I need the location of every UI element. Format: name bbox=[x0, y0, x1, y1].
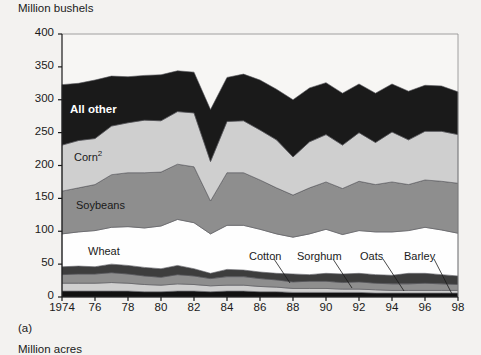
series-label-sorghum: Sorghum bbox=[297, 250, 342, 262]
series-label-barley: Barley bbox=[404, 250, 435, 262]
y-tick-label: 350 bbox=[20, 59, 54, 71]
y-tick-label: 100 bbox=[20, 223, 54, 235]
next-figure-title: Million acres bbox=[18, 343, 82, 355]
series-label-corn: Corn2 bbox=[74, 149, 102, 163]
y-tick-label: 200 bbox=[20, 158, 54, 170]
series-label-corn-superscript: 2 bbox=[98, 149, 102, 158]
y-tick-label: 0 bbox=[20, 289, 54, 301]
y-tick-label: 50 bbox=[20, 256, 54, 268]
y-tick-label: 300 bbox=[20, 92, 54, 104]
y-tick-label: 250 bbox=[20, 125, 54, 137]
y-tick-label: 150 bbox=[20, 190, 54, 202]
x-tick-label: 98 bbox=[438, 301, 478, 313]
series-label-cotton: Cotton bbox=[249, 250, 281, 262]
figure-caption: (a) bbox=[18, 322, 32, 334]
series-label-oats: Oats bbox=[360, 250, 383, 262]
series-label-corn-text: Corn bbox=[74, 151, 98, 163]
figure-container: Million bushels All other Corn2 Soybeans… bbox=[0, 0, 481, 355]
y-tick-label: 400 bbox=[20, 26, 54, 38]
series-label-all-other: All other bbox=[70, 103, 117, 115]
series-label-wheat: Wheat bbox=[88, 245, 120, 257]
series-label-soybeans: Soybeans bbox=[76, 199, 125, 211]
